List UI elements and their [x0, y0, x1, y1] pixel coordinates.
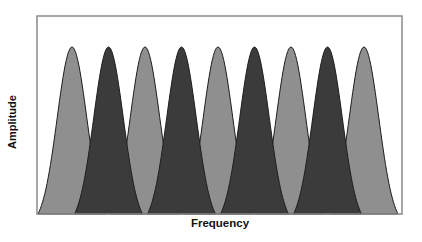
y-axis-label-text: Amplitude	[6, 95, 18, 149]
chart-canvas	[0, 0, 422, 242]
y-axis-label: Amplitude	[2, 82, 22, 162]
x-axis-label: Frequency	[0, 217, 422, 229]
